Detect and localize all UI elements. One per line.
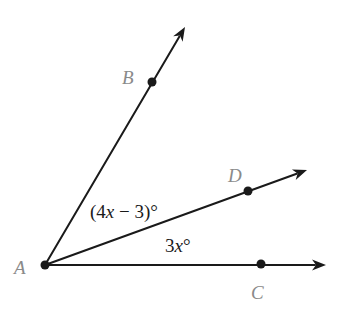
label-angle-BAD: (4x − 3)° xyxy=(90,201,158,223)
label-point-C: C xyxy=(251,282,264,303)
label-point-B: B xyxy=(122,67,134,88)
point-B xyxy=(148,78,157,87)
point-D xyxy=(244,187,253,196)
point-A xyxy=(41,261,50,270)
point-C xyxy=(257,260,266,269)
labels-group: BDCA(4x − 3)°3x° xyxy=(12,67,264,303)
angle-diagram: BDCA(4x − 3)°3x° xyxy=(0,0,339,314)
ray-AB xyxy=(45,36,179,265)
arrowheads-group xyxy=(173,27,326,271)
arrowhead-icon xyxy=(173,27,185,42)
rays-group xyxy=(45,36,315,265)
label-point-A: A xyxy=(12,257,26,278)
label-angle-DAC: 3x° xyxy=(165,235,191,256)
label-point-D: D xyxy=(227,165,242,186)
